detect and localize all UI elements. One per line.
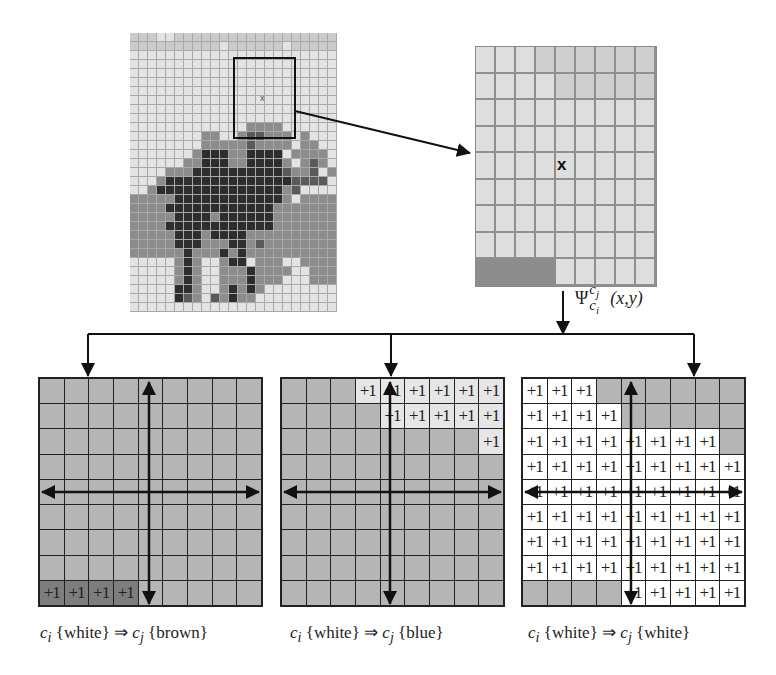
svg-text:x: x: [260, 93, 265, 103]
panel-blue-axes-icon: [284, 382, 501, 604]
panel-brown-axes-icon: [42, 382, 259, 604]
panel-white-axes-icon: [525, 382, 742, 604]
connector-arrows-layer: x: [0, 0, 776, 675]
zoom-arrow-icon: [295, 111, 470, 153]
selection-rectangle: [234, 58, 295, 138]
